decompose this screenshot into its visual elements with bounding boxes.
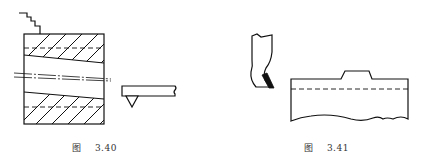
centerlines	[14, 73, 111, 81]
figure-caption: 图 3.40	[72, 141, 117, 154]
figure-3-41: 图 3.41	[211, 0, 422, 166]
figure-3-40: 图 3.40	[0, 0, 211, 166]
caption-number: 3.41	[327, 143, 349, 153]
workpiece	[291, 71, 408, 121]
cutting-tool	[122, 86, 176, 107]
tool-tip	[126, 96, 138, 107]
hatching-top	[14, 30, 134, 70]
caption-label: 图	[72, 143, 82, 153]
caption-label: 图	[304, 143, 314, 153]
figure-caption: 图 3.41	[304, 141, 349, 154]
caption-number: 3.40	[95, 143, 117, 153]
stepped-line	[19, 13, 40, 34]
